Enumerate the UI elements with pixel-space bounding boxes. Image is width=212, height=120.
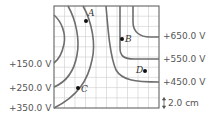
scale-label: 2.0 cm (168, 98, 199, 108)
curve-150v (54, 15, 65, 63)
point-b (120, 37, 124, 41)
label-650v: +650.0 V (163, 31, 205, 41)
label-350v: +350.0 V (9, 103, 51, 113)
curve-550v (120, 6, 159, 59)
label-150v: +150.0 V (9, 59, 51, 69)
point-c (76, 86, 80, 90)
point-a (84, 19, 88, 23)
point-a-label: A (88, 8, 95, 18)
label-450v: +450.0 V (163, 77, 205, 87)
label-550v: +550.0 V (163, 54, 205, 64)
scale-marker (163, 98, 166, 109)
point-d (143, 69, 147, 73)
curve-650v (133, 6, 159, 37)
point-d-label: D (136, 65, 143, 75)
point-c-label: C (81, 84, 88, 94)
grid-lines (54, 6, 159, 108)
label-250v: +250.0 V (9, 83, 51, 93)
point-b-label: B (125, 34, 132, 44)
